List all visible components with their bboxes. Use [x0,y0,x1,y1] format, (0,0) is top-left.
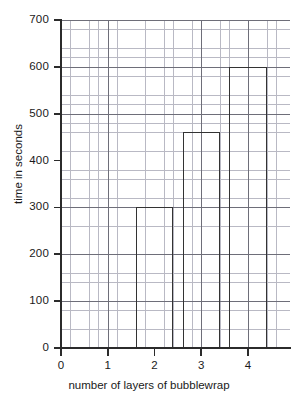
y-axis-tick-label: 200 [29,248,49,260]
x-axis-tick-label: 1 [98,360,118,372]
y-axis-tick [54,300,61,302]
y-axis-tick-label: 500 [29,108,49,120]
y-axis-tick [54,19,61,21]
y-axis-tick [54,207,61,209]
x-axis-tick-label: 0 [51,360,71,372]
x-axis-tick-label: 4 [238,360,258,372]
y-axis-tick-label: 100 [29,295,49,307]
bar [136,207,173,348]
bars-layer [61,20,290,348]
y-axis-tick [54,160,61,162]
y-axis-tick-label: 0 [42,342,49,354]
y-axis-title: time in seconds [12,94,24,234]
x-axis-tick [107,349,109,356]
y-axis-tick [54,113,61,115]
x-axis-line [60,347,291,349]
bar-chart: 0100200300400500600700 01234 time in sec… [0,0,298,400]
x-axis-tick [154,349,156,356]
y-axis-tick-label: 400 [29,155,49,167]
y-axis-tick [54,253,61,255]
x-axis-title: number of layers of bubblewrap [0,379,298,391]
x-axis-tick [60,349,62,356]
y-axis-tick-label: 700 [29,14,49,26]
bar [229,67,266,348]
x-axis-tick [247,349,249,356]
bar [183,132,220,348]
x-axis-tick-label: 3 [191,360,211,372]
y-axis-tick-label: 300 [29,201,49,213]
x-axis-tick-label: 2 [144,360,164,372]
y-axis-tick [54,66,61,68]
plot-area [61,20,290,348]
y-axis-tick-label: 600 [29,61,49,73]
x-axis-tick [200,349,202,356]
